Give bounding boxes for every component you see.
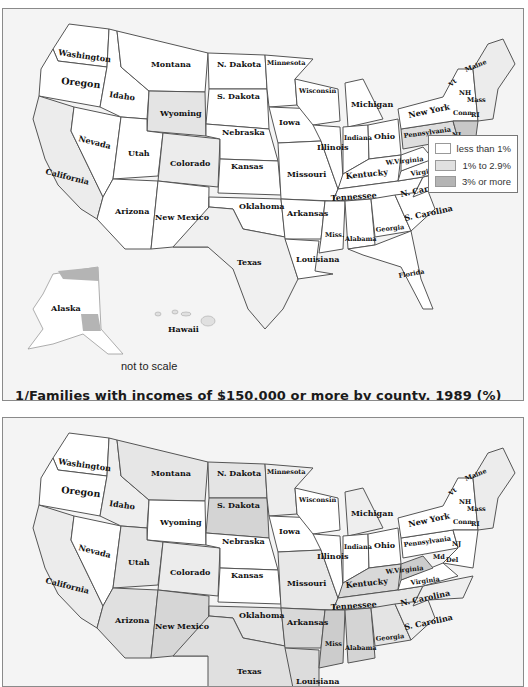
- label-n-dakota: N. Dakota: [217, 468, 261, 478]
- label-hawaii: Hawaii: [168, 324, 199, 334]
- state-arkansas: [281, 608, 325, 648]
- label-alabama: Alabama: [344, 644, 377, 652]
- label-conn: Conn: [453, 109, 472, 117]
- label-wisconsin: Wisconsin: [298, 496, 336, 504]
- label-miss: Miss.: [325, 231, 344, 239]
- alaska-shaded: [58, 267, 99, 281]
- legend-item-mid: 1% to 2.9%: [435, 158, 511, 174]
- label-texas: Texas: [237, 257, 262, 267]
- state-new-england: [473, 39, 515, 121]
- legend-item-high: 3% or more: [435, 174, 511, 190]
- label-md: Md: [433, 553, 445, 561]
- label-colorado: Colorado: [170, 158, 211, 168]
- label-michigan: Michigan: [351, 508, 393, 518]
- label-nebraska: Nebraska: [222, 536, 265, 546]
- label-kansas: Kansas: [231, 161, 264, 171]
- label-illinois: Illinois: [317, 551, 349, 561]
- label-arizona: Arizona: [114, 615, 149, 625]
- label-n-dakota: N. Dakota: [217, 59, 261, 69]
- label-oklahoma: Oklahoma: [239, 201, 285, 211]
- legend-swatch-low: [435, 143, 451, 154]
- us-map-top: Washington Oregon California Idaho Nevad…: [3, 9, 524, 401]
- legend-label-low: less than 1%: [457, 143, 511, 154]
- label-utah: Utah: [128, 148, 150, 158]
- legend-label-high: 3% or more: [462, 176, 511, 187]
- label-wyoming: Wyoming: [159, 517, 202, 527]
- legend-item-low: less than 1%: [435, 141, 511, 157]
- not-to-scale-note: not to scale: [121, 360, 177, 372]
- state-alabama: [345, 608, 375, 663]
- label-wyoming: Wyoming: [159, 108, 202, 118]
- label-iowa: Iowa: [279, 526, 300, 536]
- alaska-shaded-south: [81, 314, 101, 331]
- map-panel-top: Washington Oregon California Idaho Nevad…: [2, 8, 524, 401]
- label-texas: Texas: [237, 666, 262, 676]
- label-ri: RI: [471, 520, 479, 528]
- label-ri: RI: [471, 111, 479, 119]
- label-kansas: Kansas: [231, 570, 264, 580]
- label-illinois: Illinois: [317, 142, 349, 152]
- label-arizona: Arizona: [114, 206, 149, 216]
- label-louisiana: Louisiana: [296, 254, 340, 264]
- label-new-mexico: New Mexico: [155, 212, 210, 222]
- label-alaska: Alaska: [50, 303, 81, 313]
- label-montana: Montana: [151, 468, 191, 478]
- label-missouri: Missouri: [287, 169, 326, 179]
- label-ohio: Ohio: [374, 131, 396, 141]
- label-michigan: Michigan: [351, 99, 393, 109]
- legend: less than 1% 1% to 2.9% 3% or more: [428, 135, 518, 193]
- label-new-mexico: New Mexico: [155, 621, 210, 631]
- label-oklahoma: Oklahoma: [239, 610, 285, 620]
- label-mass: Mass: [467, 505, 486, 513]
- state-new-york: [398, 69, 478, 129]
- label-colorado: Colorado: [170, 567, 211, 577]
- legend-swatch-high: [435, 176, 456, 187]
- label-arkansas: Arkansas: [286, 617, 329, 627]
- label-conn: Conn: [453, 518, 472, 526]
- label-missouri: Missouri: [287, 578, 326, 588]
- label-del: Del: [446, 556, 459, 564]
- us-map-bottom: Washington Oregon California Idaho Nevad…: [3, 418, 524, 687]
- label-minnesota: Minnesota: [267, 59, 306, 67]
- map-panel-bottom: Washington Oregon California Idaho Nevad…: [2, 417, 524, 687]
- label-nebraska: Nebraska: [222, 127, 265, 137]
- state-arkansas: [281, 199, 325, 239]
- legend-swatch-mid: [435, 160, 456, 171]
- legend-label-mid: 1% to 2.9%: [462, 160, 511, 171]
- label-arkansas: Arkansas: [286, 208, 329, 218]
- label-iowa: Iowa: [279, 117, 300, 127]
- label-montana: Montana: [151, 59, 191, 69]
- label-alabama: Alabama: [344, 235, 377, 243]
- state-new-york: [398, 478, 478, 538]
- label-indiana: Indiana: [344, 134, 373, 142]
- map-caption: 1/Families with incomes of $150,000 or m…: [15, 388, 502, 401]
- label-louisiana: Louisiana: [296, 676, 340, 686]
- label-indiana: Indiana: [344, 543, 373, 551]
- label-nj: NJ: [452, 540, 461, 548]
- label-utah: Utah: [128, 557, 150, 567]
- label-miss: Miss: [325, 640, 342, 648]
- label-wisconsin: Wisconsin: [298, 87, 336, 95]
- label-ohio: Ohio: [374, 540, 396, 550]
- label-s-dakota: S. Dakota: [217, 91, 260, 101]
- label-minnesota: Minnesota: [267, 468, 306, 476]
- label-s-dakota: S. Dakota: [217, 500, 260, 510]
- label-mass: Mass: [467, 96, 486, 104]
- state-new-england: [473, 448, 515, 530]
